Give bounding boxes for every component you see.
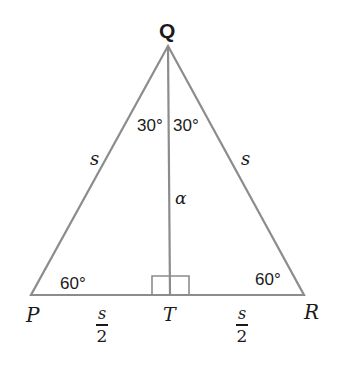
vertex-label-r: R xyxy=(304,302,319,322)
side-label-left: s xyxy=(90,150,99,168)
fraction-numerator: s xyxy=(98,306,106,322)
vertex-label-q: Q xyxy=(159,20,175,41)
base-fraction-right: s 2 xyxy=(236,306,248,345)
angle-label-bottom-right: 60° xyxy=(255,271,281,288)
base-fraction-left: s 2 xyxy=(96,306,108,345)
vertex-label-p: P xyxy=(26,305,39,325)
vertex-label-t: T xyxy=(163,305,176,324)
triangle-diagram: Q P T R 30° 30° 60° 60° s s α s 2 s 2 xyxy=(0,0,342,372)
fraction-numerator: s xyxy=(238,306,246,322)
angle-label-top-left: 30° xyxy=(137,117,163,134)
altitude-label-alpha: α xyxy=(175,190,186,207)
angle-label-top-right: 30° xyxy=(173,117,199,134)
fraction-denominator: 2 xyxy=(97,328,108,345)
altitude-qt xyxy=(168,46,170,295)
angle-label-bottom-left: 60° xyxy=(60,275,86,292)
fraction-denominator: 2 xyxy=(237,328,248,345)
side-label-right: s xyxy=(241,150,250,168)
